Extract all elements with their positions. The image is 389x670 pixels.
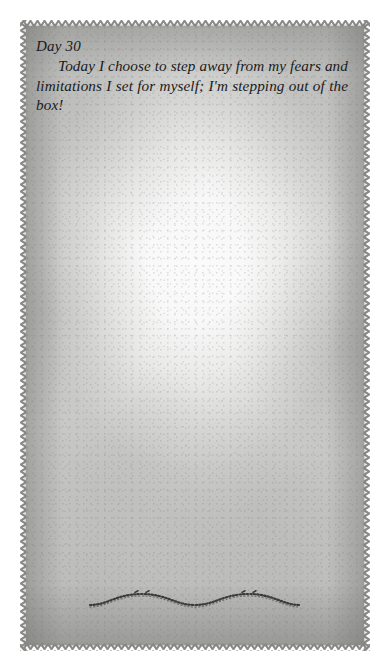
page-root: Day 30 Today I choose to step away from … — [0, 0, 389, 670]
wavy-flourish-icon — [88, 587, 302, 613]
paper-vignette-layer — [26, 26, 364, 645]
journal-page-card: Day 30 Today I choose to step away from … — [20, 20, 370, 651]
paper-surface — [26, 26, 364, 645]
entry-day-label: Day 30 — [36, 38, 348, 55]
journal-entry: Day 30 Today I choose to step away from … — [36, 38, 348, 115]
entry-body-text: Today I choose to step away from my fear… — [36, 56, 348, 115]
